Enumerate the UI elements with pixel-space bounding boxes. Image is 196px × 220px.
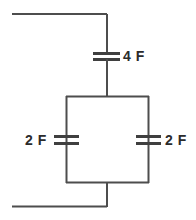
circuit-schematic-svg (0, 0, 196, 220)
circuit-diagram: 4 F 2 F 2 F (0, 0, 196, 220)
capacitor-4f-label: 4 F (123, 49, 145, 63)
capacitor-2f-left-label: 2 F (25, 133, 47, 147)
capacitor-2f-right-label: 2 F (165, 133, 187, 147)
